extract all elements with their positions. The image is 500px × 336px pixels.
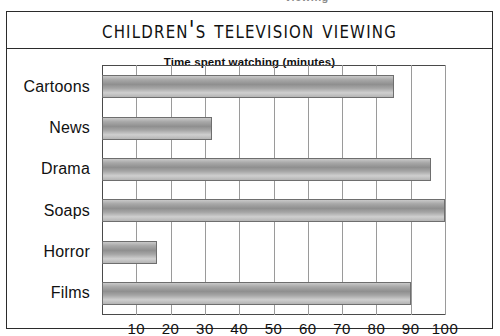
x-tick-label: 60: [299, 320, 317, 336]
bar: [102, 241, 157, 264]
gridline-10: [136, 65, 137, 315]
cutoff-text: viewing: [285, 0, 329, 3]
bar: [102, 117, 212, 140]
gridline-100: [445, 65, 446, 315]
bar: [102, 75, 394, 98]
category-label: Films: [51, 284, 90, 302]
category-label: Horror: [43, 243, 90, 261]
category-label: Soaps: [44, 202, 90, 220]
gridline-60: [308, 65, 309, 315]
scan-artifact-sliver: viewing: [0, 0, 500, 10]
category-label: Drama: [41, 160, 90, 178]
x-tick-label: 30: [196, 320, 214, 336]
x-tick-label: 100: [432, 320, 459, 336]
x-tick-label: 80: [368, 320, 386, 336]
bar-row: Cartoons: [102, 75, 445, 98]
bar-row: Soaps: [102, 199, 445, 222]
page-title: Children's Television Viewing: [102, 16, 397, 44]
x-tick-label: 70: [333, 320, 351, 336]
category-label: Cartoons: [23, 78, 90, 96]
gridline-20: [171, 65, 172, 315]
bar-row: Drama: [102, 158, 445, 181]
bar: [102, 158, 431, 181]
x-tick-label: 20: [162, 320, 180, 336]
bar-row: Films: [102, 282, 445, 305]
gridline-70: [342, 65, 343, 315]
axis-line-zero: [102, 65, 103, 315]
title-band: Children's Television Viewing: [7, 12, 492, 49]
x-tick-label: 90: [402, 320, 420, 336]
chart-figure: Children's Television Viewing Time spent…: [6, 11, 493, 329]
gridline-30: [205, 65, 206, 315]
x-tick-label: 10: [127, 320, 145, 336]
category-label: News: [49, 119, 90, 137]
x-tick-label: 50: [265, 320, 283, 336]
bar: [102, 282, 411, 305]
gridline-50: [274, 65, 275, 315]
plot-area: 102030405060708090100CartoonsNewsDramaSo…: [102, 65, 445, 315]
bar-row: Horror: [102, 241, 445, 264]
bar: [102, 199, 445, 222]
gridline-80: [376, 65, 377, 315]
x-tick-label: 40: [230, 320, 248, 336]
bar-row: News: [102, 117, 445, 140]
gridline-40: [239, 65, 240, 315]
gridline-90: [411, 65, 412, 315]
